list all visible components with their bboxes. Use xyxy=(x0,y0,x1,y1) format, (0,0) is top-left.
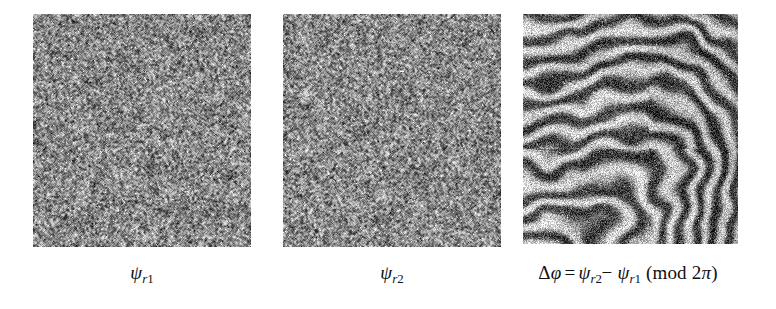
caption-psi-r2: ψr2 xyxy=(283,258,501,294)
psi-symbol-r1: ψ xyxy=(130,262,142,283)
pi-symbol: π xyxy=(701,262,711,283)
caption-delta-phi: Δφ=ψr2− ψr1 (mod 2π) xyxy=(480,258,776,294)
minus-sign: − xyxy=(602,262,613,283)
phi-symbol: φ xyxy=(551,262,562,283)
psi-symbol-term1: ψ xyxy=(578,262,590,283)
speckle-image-psi-r1 xyxy=(33,14,251,247)
psi-symbol-term2: ψ xyxy=(617,262,629,283)
delta-symbol: Δ xyxy=(538,262,550,283)
psi-subscript-index-r1: 1 xyxy=(147,271,153,286)
mod-keyword: mod xyxy=(652,262,686,283)
equals-sign: = xyxy=(561,262,578,283)
psi-subscript-index-r2: 2 xyxy=(397,271,403,286)
psi-term2-subscript-index: 1 xyxy=(634,271,640,286)
psi-term1-subscript-index: 2 xyxy=(595,271,601,286)
psi-symbol-r2: ψ xyxy=(380,262,392,283)
figure-root: ψr1 ψr2 Δφ=ψr2− ψr1 (mod 2π) xyxy=(0,0,776,309)
caption-psi-r1: ψr1 xyxy=(33,258,251,294)
mod-close-paren: ) xyxy=(711,262,718,283)
mod-factor: 2 xyxy=(692,262,702,283)
speckle-image-psi-r2 xyxy=(283,14,501,247)
fringe-interferogram-image xyxy=(523,14,738,244)
